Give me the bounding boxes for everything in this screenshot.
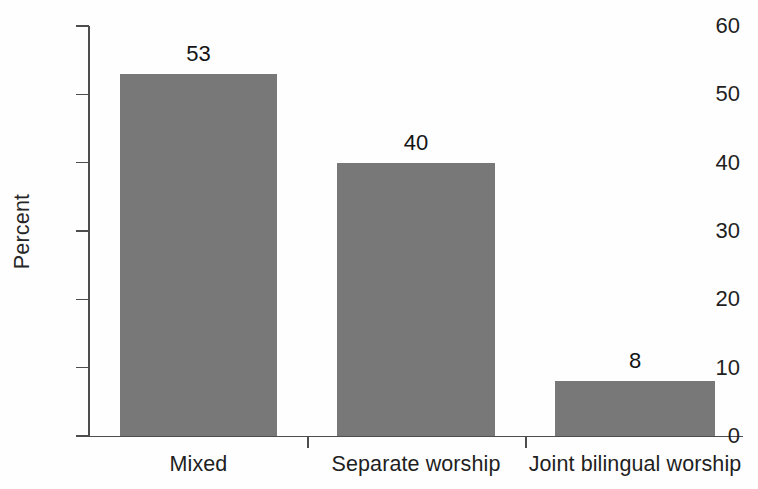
- y-axis-tick-mark: [76, 25, 89, 27]
- y-axis-tick-label: 20: [686, 286, 758, 312]
- x-axis-category-label: Separate worship: [332, 452, 501, 477]
- bar-chart-figure: Percent 0102030405060 53408 MixedSeparat…: [0, 0, 758, 489]
- y-axis-tick-mark: [76, 435, 89, 437]
- y-axis-tick-mark: [76, 94, 89, 96]
- y-axis-title: Percent: [0, 0, 46, 462]
- x-axis-category-label: Joint bilingual worship: [529, 452, 742, 477]
- y-axis-tick-label: 60: [686, 13, 758, 39]
- y-axis-tick-label: 30: [686, 218, 758, 244]
- x-axis-tick-mark: [307, 436, 309, 448]
- y-axis-title-text: Percent: [11, 193, 36, 269]
- x-axis-category-label: Mixed: [170, 452, 228, 477]
- y-axis-tick-label: 50: [686, 81, 758, 107]
- bar: [337, 163, 495, 436]
- bar: [120, 74, 277, 436]
- bar-value-label: 53: [186, 41, 210, 67]
- y-axis-tick-mark: [76, 299, 89, 301]
- bar-value-label: 8: [629, 348, 641, 374]
- y-axis-tick-mark: [76, 162, 89, 164]
- bar-value-label: 40: [404, 130, 428, 156]
- y-axis-tick-label: 40: [686, 150, 758, 176]
- bar: [555, 381, 715, 436]
- y-axis-tick-mark: [76, 367, 89, 369]
- y-axis-tick-label: 10: [686, 355, 758, 381]
- y-axis-tick-mark: [76, 230, 89, 232]
- x-axis-tick-mark: [525, 436, 527, 448]
